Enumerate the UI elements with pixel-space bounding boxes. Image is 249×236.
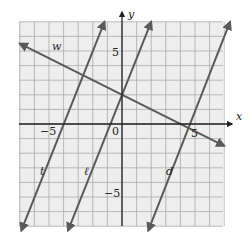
x-axis-label: x (236, 110, 243, 123)
line-label-d: d (166, 165, 173, 178)
line-label-w: w (52, 40, 62, 53)
tick-label-x-0: 0 (112, 125, 119, 138)
line-label-l: ℓ (84, 165, 89, 178)
line-label-t: t (40, 165, 45, 178)
tick-label-x-5: 5 (191, 127, 198, 140)
tick-label-x-neg5: −5 (40, 125, 56, 138)
tick-label-y-5: 5 (112, 46, 119, 59)
y-axis-label: y (127, 8, 135, 21)
tick-label-y-neg5: −5 (104, 187, 120, 200)
coordinate-plane: x y −5 0 5 5 −5 w t ℓ d (0, 0, 249, 236)
